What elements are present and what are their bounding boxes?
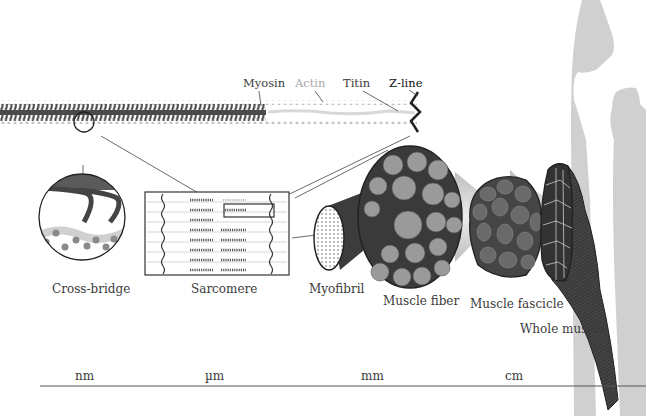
- sarcomere-diagram: [145, 192, 289, 275]
- label-muscle-fiber: Muscle fiber: [383, 295, 459, 307]
- label-muscle-fascicle: Muscle fascicle: [470, 298, 564, 310]
- label-myofibril: Myofibril: [309, 283, 364, 295]
- muscle-hierarchy-diagram: [0, 0, 646, 416]
- label-whole-muscle: Whole muscle: [520, 323, 605, 335]
- scale-tick-mm: mm: [361, 370, 384, 382]
- scale-tick-cm: cm: [505, 370, 523, 382]
- cross-bridge-inset: [39, 174, 125, 260]
- scale-tick-nm: nm: [75, 370, 94, 382]
- scale-tick-um: µm: [205, 370, 224, 382]
- label-z-line: Z-line: [389, 78, 422, 90]
- label-myosin: Myosin: [243, 78, 285, 90]
- filament-strip: [0, 92, 420, 132]
- titin-filament: [268, 111, 415, 114]
- label-titin: Titin: [343, 78, 370, 90]
- label-cross-bridge: Cross-bridge: [52, 283, 130, 295]
- label-actin: Actin: [295, 78, 325, 90]
- label-sarcomere: Sarcomere: [191, 283, 257, 295]
